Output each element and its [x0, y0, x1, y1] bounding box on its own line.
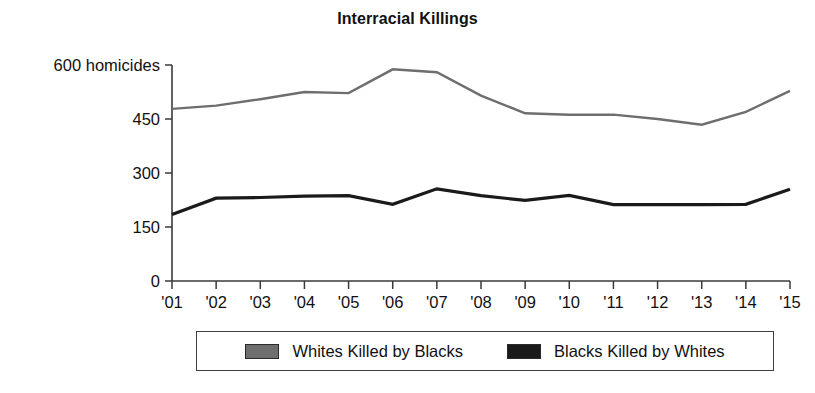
x-tick-label: '02 [205, 293, 227, 311]
x-tick-label: '07 [426, 293, 448, 311]
x-tick-label: '08 [470, 293, 492, 311]
chart-legend: Whites Killed by Blacks Blacks Killed by… [196, 331, 774, 371]
x-tick-label: '11 [603, 293, 623, 311]
legend-swatch-icon [245, 344, 279, 359]
series-line-0 [172, 69, 790, 124]
y-tick-label: 150 [132, 218, 160, 236]
y-tick-label: 300 [132, 164, 160, 182]
y-tick-label: 450 [132, 110, 160, 128]
y-tick-label: 600 homicides [54, 56, 160, 74]
x-tick-label: '01 [161, 293, 183, 311]
y-tick-label: 0 [151, 272, 160, 290]
legend-label-0: Whites Killed by Blacks [292, 342, 463, 361]
legend-label-1: Blacks Killed by Whites [554, 342, 725, 361]
x-tick-label: '04 [294, 293, 316, 311]
x-tick-label: '05 [338, 293, 360, 311]
x-tick-label: '09 [514, 293, 536, 311]
x-axis-tick-labels: '01'02'03'04'05'06'07'08'09'10'11'12'13'… [161, 293, 801, 311]
x-tick-label: '06 [382, 293, 404, 311]
x-tick-label: '15 [779, 293, 801, 311]
chart-container: Interracial Killings 0150300450600 homic… [0, 0, 815, 393]
series-line-1 [172, 189, 790, 215]
y-axis-tick-labels: 0150300450600 homicides [54, 56, 160, 290]
legend-item-1: Blacks Killed by Whites [507, 342, 725, 361]
legend-item-0: Whites Killed by Blacks [245, 342, 463, 361]
chart-series-lines [172, 69, 790, 214]
x-tick-label: '03 [250, 293, 272, 311]
x-tick-label: '13 [691, 293, 713, 311]
legend-swatch-icon [507, 344, 541, 359]
x-tick-label: '14 [735, 293, 757, 311]
x-tick-label: '10 [559, 293, 581, 311]
x-tick-label: '12 [647, 293, 669, 311]
